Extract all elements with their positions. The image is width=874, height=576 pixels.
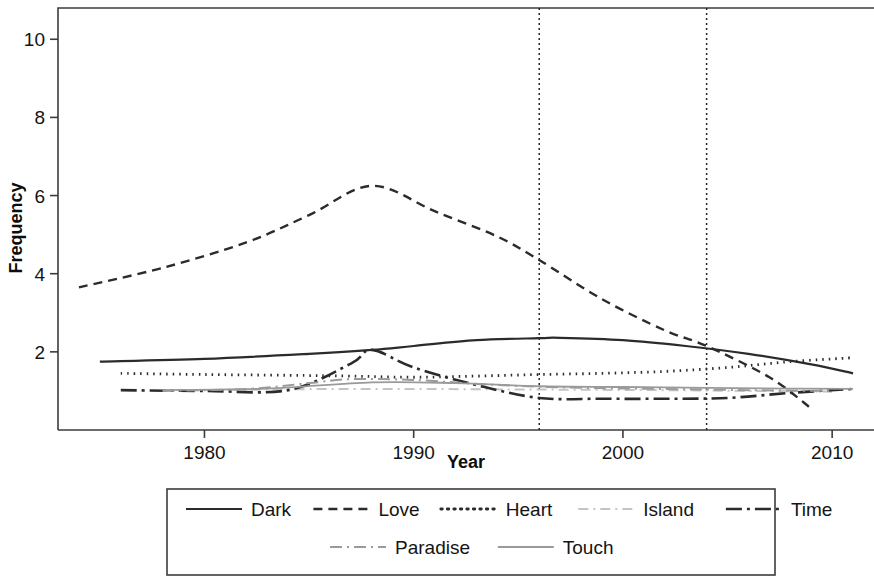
- series-line-heart: [121, 358, 853, 378]
- plot-frame: [58, 8, 874, 430]
- x-axis-ticks: [204, 430, 832, 438]
- vertical-reference-lines: [539, 8, 706, 430]
- legend-label-paradise: Paradise: [395, 537, 470, 558]
- y-axis-ticks: [50, 39, 58, 352]
- legend-label-dark: Dark: [251, 499, 292, 520]
- x-tick-label: 1980: [183, 442, 225, 463]
- series-line-love: [79, 186, 811, 409]
- legend-label-island: Island: [643, 499, 694, 520]
- x-axis-tick-labels: 1980199020002010: [183, 442, 853, 463]
- y-tick-label: 8: [34, 107, 45, 128]
- legend-entries: DarkLoveHeartIslandTimeParadiseTouch: [186, 499, 832, 558]
- x-tick-label: 2000: [602, 442, 644, 463]
- legend-label-touch: Touch: [563, 537, 614, 558]
- data-series-group: [79, 186, 853, 409]
- legend-label-love: Love: [378, 499, 419, 520]
- frequency-by-year-line-chart: 246810 1980199020002010 Year Frequency D…: [0, 0, 874, 576]
- x-tick-label: 1990: [393, 442, 435, 463]
- x-tick-label: 2010: [811, 442, 853, 463]
- y-axis-tick-labels: 246810: [24, 29, 46, 363]
- legend-label-heart: Heart: [506, 499, 553, 520]
- series-line-dark: [100, 338, 853, 374]
- chart-canvas: 246810 1980199020002010 Year Frequency D…: [0, 0, 874, 576]
- y-tick-label: 6: [34, 186, 45, 207]
- y-tick-label: 4: [34, 264, 45, 285]
- legend-label-time: Time: [791, 499, 833, 520]
- y-tick-label: 2: [34, 342, 45, 363]
- y-axis-title: Frequency: [6, 182, 26, 273]
- x-axis-title: Year: [447, 452, 485, 472]
- y-tick-label: 10: [24, 29, 45, 50]
